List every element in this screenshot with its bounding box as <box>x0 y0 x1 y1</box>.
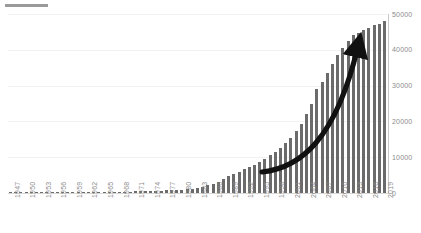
x-tick-label: 1974 <box>154 182 161 198</box>
plot-area <box>8 14 387 193</box>
bar <box>227 176 230 193</box>
bar <box>362 30 365 193</box>
x-tick-label: 2001 <box>294 182 301 198</box>
bar <box>321 82 324 193</box>
bar <box>378 24 381 193</box>
x-tick-label: 1992 <box>247 182 254 198</box>
bar-chart-figure: 01000020000300004000050000 1947195019531… <box>0 0 421 233</box>
x-tick-label: 1959 <box>76 182 83 198</box>
bar <box>383 21 386 193</box>
x-tick-label: 2016 <box>372 182 379 198</box>
x-tick-label: 1989 <box>232 182 239 198</box>
bar <box>289 138 292 193</box>
gridline <box>8 50 387 51</box>
x-tick-label: 1962 <box>91 182 98 198</box>
x-tick-label: 1965 <box>107 182 114 198</box>
x-tick-label: 1947 <box>14 182 21 198</box>
x-tick-label: 1980 <box>185 182 192 198</box>
x-tick-label: 2013 <box>356 182 363 198</box>
bar <box>326 73 329 193</box>
bar <box>331 64 334 193</box>
bar <box>310 104 313 194</box>
x-tick-label: 1953 <box>45 182 52 198</box>
x-tick-label: 2010 <box>341 182 348 198</box>
x-tick-label: 1950 <box>29 182 36 198</box>
bar <box>336 55 339 193</box>
y-tick-label: 30000 <box>392 82 412 89</box>
x-tick-label: 2007 <box>325 182 332 198</box>
x-tick-label: 1956 <box>60 182 67 198</box>
x-tick-label: 1968 <box>123 182 130 198</box>
y-tick-label: 10000 <box>392 154 412 161</box>
x-tick-label: 1998 <box>278 182 285 198</box>
bar <box>347 41 350 193</box>
x-tick-label: 1971 <box>138 182 145 198</box>
bar <box>367 28 370 193</box>
y-tick-label: 20000 <box>392 118 412 125</box>
bar <box>274 152 277 193</box>
bar <box>305 114 308 193</box>
bar <box>315 89 318 193</box>
redacted-title-bar <box>5 4 48 7</box>
x-tick-label: 2019 <box>387 182 394 198</box>
x-tick-label: 1977 <box>169 182 176 198</box>
x-tick-label: 1995 <box>263 182 270 198</box>
bar <box>341 48 344 193</box>
bar <box>373 25 376 193</box>
x-tick-label: 1983 <box>201 182 208 198</box>
y-tick-label: 50000 <box>392 11 412 18</box>
bar <box>212 184 215 193</box>
gridline <box>8 14 387 15</box>
bar <box>352 35 355 193</box>
y-axis-line <box>388 14 389 194</box>
bar <box>357 33 360 193</box>
bar <box>258 162 261 193</box>
bar <box>243 169 246 193</box>
x-tick-label: 2004 <box>310 182 317 198</box>
y-tick-label: 40000 <box>392 46 412 53</box>
x-tick-label: 1986 <box>216 182 223 198</box>
